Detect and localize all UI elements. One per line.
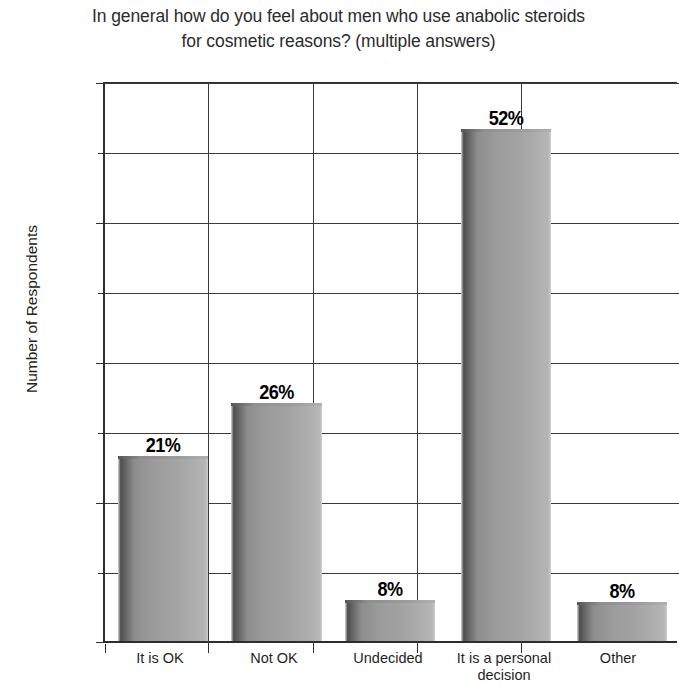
- y-tick-mark-825: [96, 503, 105, 504]
- category-separator-3: [417, 83, 418, 644]
- category-separator-1: [208, 83, 209, 644]
- x-category-label-it-is-ok-line-1: It is OK: [136, 650, 184, 666]
- x-category-label-it-is-a-personal-decision: It is a personal decision: [444, 650, 564, 684]
- plot-area: 21% 26% 8% 52% 8%: [103, 82, 677, 643]
- x-category-label-personal-line-1: It is a personal: [457, 650, 551, 666]
- x-category-label-other: Other: [568, 650, 668, 667]
- gridline-minor-1762: [105, 293, 679, 294]
- y-axis-title: Number of Respondents: [23, 179, 41, 439]
- bar-undecided[interactable]: [345, 600, 435, 641]
- bar-not-ok[interactable]: [231, 403, 322, 641]
- x-category-label-undecided: Undecided: [335, 650, 441, 667]
- y-tick-mark-512: [98, 573, 105, 574]
- bar-value-label-not-ok: 26%: [237, 380, 315, 404]
- bar-it-is-a-personal-decision[interactable]: [461, 129, 551, 641]
- x-category-label-not-ok: Not OK: [224, 650, 324, 667]
- gridline-minor-2387: [105, 153, 679, 154]
- x-category-label-not-ok-line-1: Not OK: [250, 650, 298, 666]
- y-tick-mark-1450: [96, 363, 105, 364]
- gridline-major-1450: [105, 363, 679, 364]
- bar-value-label-undecided: 8%: [351, 577, 428, 601]
- bar-value-label-it-is-a-personal-decision: 52%: [467, 106, 544, 130]
- bar-other[interactable]: [577, 602, 667, 641]
- x-category-label-undecided-line-1: Undecided: [353, 650, 422, 666]
- bar-it-is-ok[interactable]: [118, 456, 208, 641]
- x-category-label-personal-line-2: decision: [444, 667, 564, 684]
- y-tick-mark-2700: [96, 83, 105, 84]
- y-tick-mark-2075: [96, 223, 105, 224]
- y-tick-mark-1137: [98, 433, 105, 434]
- bar-value-label-other: 8%: [583, 579, 660, 603]
- y-tick-mark-1762: [98, 293, 105, 294]
- chart-title-line-2: for cosmetic reasons? (multiple answers): [0, 29, 677, 54]
- bar-value-label-it-is-ok: 21%: [124, 433, 201, 457]
- gridline-major-2075: [105, 223, 679, 224]
- gridline-major-2700: [105, 83, 679, 84]
- x-category-label-other-line-1: Other: [600, 650, 636, 666]
- x-category-label-it-is-ok: It is OK: [110, 650, 210, 667]
- y-tick-mark-200: [96, 642, 105, 643]
- y-tick-mark-2387: [98, 153, 105, 154]
- chart-title-line-1: In general how do you feel about men who…: [0, 4, 677, 29]
- chart-title: In general how do you feel about men who…: [0, 4, 677, 54]
- x-tick-mark-0: [105, 644, 106, 653]
